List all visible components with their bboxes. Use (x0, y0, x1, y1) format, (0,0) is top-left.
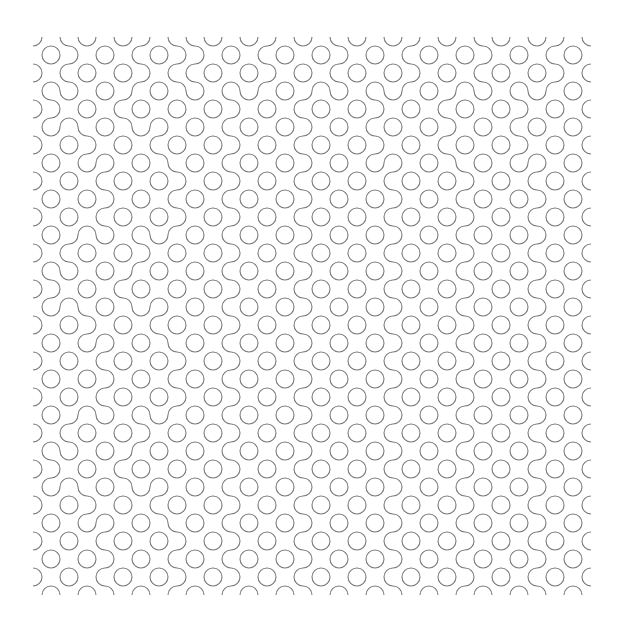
truchet-arcs (33, 37, 591, 595)
truchet-pattern (33, 37, 591, 595)
truchet-tiles (33, 37, 591, 595)
